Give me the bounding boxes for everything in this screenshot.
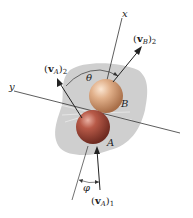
y-axis-label: y — [9, 82, 15, 92]
vA1-label: (vA)1 — [91, 196, 114, 208]
phi-label: φ — [83, 183, 90, 193]
diagram-graphic — [0, 0, 193, 218]
x-axis-label: x — [122, 9, 128, 19]
sphere-B — [89, 79, 123, 113]
sphere-B-label: B — [121, 99, 128, 109]
sphere-A-label: A — [107, 138, 114, 148]
vB2-arrowhead — [134, 46, 142, 55]
theta-label: θ — [86, 73, 92, 83]
collision-diagram: x y (vB)2 (vA)2 (vA)1 θ φ B A — [0, 0, 193, 218]
vA2-label: (vA)2 — [44, 64, 67, 76]
vB2-label: (vB)2 — [133, 34, 156, 46]
sphere-A — [76, 110, 110, 144]
vA2-arrowhead — [57, 78, 63, 87]
